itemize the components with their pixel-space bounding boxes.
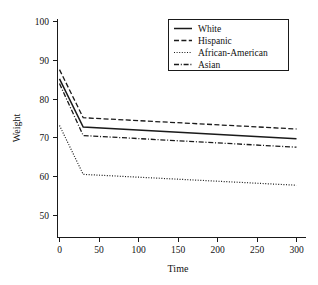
x-tick-label: 300 [289,245,304,255]
legend-label: Hispanic [198,36,232,46]
x-axis-title: Time [168,263,189,274]
chart-canvas: 100 90 80 70 60 50 [0,0,318,285]
x-tick-label: 150 [171,245,186,255]
legend: White Hispanic African-American Asian [169,20,289,71]
y-tick-label: 90 [40,56,50,66]
y-tick-label: 50 [40,211,50,221]
x-tick-label: 250 [250,245,265,255]
x-tick-label: 0 [57,245,62,255]
y-tick-label: 100 [35,17,50,27]
y-axis-title: Weight [11,113,22,142]
y-tick-label: 60 [40,172,50,182]
legend-label: White [198,24,221,34]
y-tick-label: 70 [40,133,50,143]
y-tick-label: 80 [40,95,50,105]
x-tick-label: 50 [94,245,104,255]
x-tick-label: 100 [131,245,146,255]
legend-label: African-American [198,48,268,58]
x-tick-label: 200 [210,245,225,255]
legend-label: Asian [198,60,220,70]
weight-over-time-chart: 100 90 80 70 60 50 [0,0,318,285]
